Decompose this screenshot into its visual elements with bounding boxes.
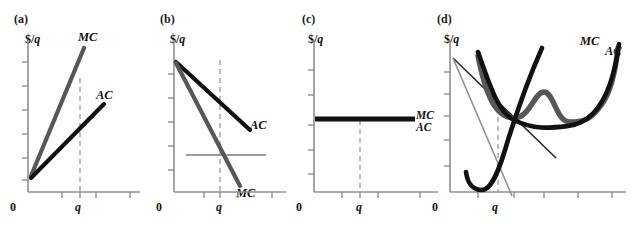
panel-b-plot [148, 0, 308, 230]
panel-b: (b) $/q 0 q AC MC [148, 0, 308, 230]
panel-d-tangent-line-shallow [453, 58, 556, 158]
panel-a-plot [0, 0, 160, 230]
panel-a-ac-curve [31, 104, 104, 178]
panel-d: (d) $/q 0 q MC AC [430, 0, 636, 230]
panel-d-mc-curve-left [466, 48, 542, 190]
panel-a-mc-curve [31, 48, 84, 176]
cost-curves-figure: (a) $/q 0 q MC AC [0, 0, 636, 230]
panel-b-ac-curve [176, 62, 250, 130]
panel-d-plot [430, 0, 636, 230]
panel-a: (a) $/q 0 q MC AC [0, 0, 160, 230]
panel-b-mc-curve [176, 63, 240, 186]
